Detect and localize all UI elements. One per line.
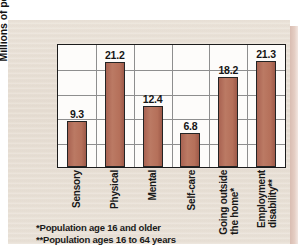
x-axis-category-label: Going outside the home* xyxy=(218,170,240,235)
bar-value-label: 6.8 xyxy=(183,120,197,132)
bar xyxy=(105,62,125,167)
x-label-cell: Self-care xyxy=(172,170,210,232)
bar-column: 9.3 xyxy=(58,45,96,167)
bar xyxy=(256,61,276,167)
y-axis-title: Millions of people xyxy=(0,0,9,80)
plot-frame: 9.321.212.46.818.221.3 xyxy=(57,44,286,168)
x-axis-category-label: Employment disability** xyxy=(256,170,278,228)
x-axis-category-label: Mental xyxy=(147,170,158,200)
bar-value-label: 9.3 xyxy=(70,108,84,120)
footnotes: *Population age 16 and older **Populatio… xyxy=(36,222,176,245)
footnote-line-1: *Population age 16 and older xyxy=(36,222,176,234)
bar-column: 18.2 xyxy=(209,45,247,167)
x-label-cell: Employment disability** xyxy=(248,170,286,232)
bar-value-label: 21.2 xyxy=(105,49,125,61)
x-label-cell: Going outside the home* xyxy=(210,170,248,232)
bar-series: 9.321.212.46.818.221.3 xyxy=(58,45,285,167)
bar-value-label: 21.3 xyxy=(256,48,276,60)
page-edge-shadow xyxy=(290,26,298,244)
bar-column: 21.2 xyxy=(96,45,134,167)
bar xyxy=(180,133,200,167)
bar xyxy=(143,106,163,168)
bar xyxy=(218,77,238,167)
plot-area: 9.321.212.46.818.221.3 xyxy=(57,44,286,168)
bar-value-label: 12.4 xyxy=(143,93,163,105)
x-axis-category-label: Sensory xyxy=(71,170,82,208)
bar-column: 6.8 xyxy=(171,45,209,167)
bar-value-label: 18.2 xyxy=(218,64,238,76)
footnote-line-2: **Population ages 16 to 64 years xyxy=(36,234,176,245)
bar xyxy=(67,121,87,167)
bar-column: 21.3 xyxy=(247,45,285,167)
bar-column: 12.4 xyxy=(134,45,172,167)
x-axis-category-label: Physical xyxy=(109,170,120,209)
x-axis-category-label: Self-care xyxy=(186,170,197,210)
